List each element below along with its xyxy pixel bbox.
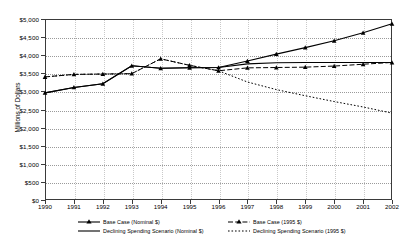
x-tick-label: 2000 [327, 203, 341, 210]
x-tick-label: 1990 [38, 203, 52, 210]
x-tick-mark [334, 200, 335, 204]
x-tick-mark [190, 200, 191, 204]
legend-swatch-icon [228, 218, 250, 226]
x-tick-label: 1995 [183, 203, 197, 210]
x-tick-label: 1991 [67, 203, 81, 210]
legend-label: Declining Spending Scenario (Nominal $) [103, 227, 204, 235]
x-tick-mark [132, 200, 133, 204]
legend-column-left: Base Case (Nominal $)Declining Spending … [78, 218, 204, 236]
x-tick-mark [45, 200, 46, 204]
x-tick-mark [363, 200, 364, 204]
x-tick-mark [161, 200, 162, 204]
legend-label: Declining Spending Scenario (1995 $) [253, 227, 346, 235]
chart-container: $0$500$1,000$1,500$2,000$2,500$3,000$3,5… [0, 0, 411, 250]
legend-swatch-icon [78, 227, 100, 235]
x-tick-mark [305, 200, 306, 204]
x-tick-mark [74, 200, 75, 204]
legend-item[interactable]: Declining Spending Scenario (1995 $) [228, 227, 346, 235]
x-tick-mark [103, 200, 104, 204]
x-tick-label: 1994 [154, 203, 168, 210]
x-axis-labels: 1990199119921993199419951996199719981999… [0, 0, 411, 250]
legend-item[interactable]: Base Case (Nominal $) [78, 218, 204, 226]
x-tick-mark [276, 200, 277, 204]
chart-legend: Base Case (Nominal $)Declining Spending … [0, 218, 411, 250]
legend-swatch-icon [228, 227, 250, 235]
legend-column-right: Base Case (1995 $)Declining Spending Sce… [228, 218, 346, 236]
legend-item[interactable]: Base Case (1995 $) [228, 218, 346, 226]
legend-swatch-icon [78, 218, 100, 226]
x-tick-label: 1999 [298, 203, 312, 210]
x-tick-label: 2002 [385, 203, 399, 210]
legend-item[interactable]: Declining Spending Scenario (Nominal $) [78, 227, 204, 235]
x-tick-label: 1996 [212, 203, 226, 210]
x-tick-label: 1993 [125, 203, 139, 210]
x-tick-mark [219, 200, 220, 204]
x-tick-label: 1997 [241, 203, 255, 210]
legend-label: Base Case (Nominal $) [103, 218, 160, 226]
y-axis-title: Millions of Dollars [14, 63, 21, 153]
x-tick-label: 1998 [269, 203, 283, 210]
x-tick-label: 2001 [356, 203, 370, 210]
legend-label: Base Case (1995 $) [253, 218, 302, 226]
x-tick-mark [247, 200, 248, 204]
x-tick-mark [392, 200, 393, 204]
x-tick-label: 1992 [96, 203, 110, 210]
